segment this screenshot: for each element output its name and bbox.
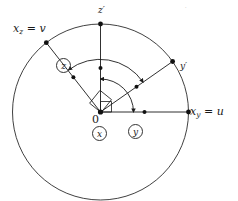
midpoint-dot-yprime [135, 85, 139, 89]
midpoint-dot-zprime [99, 66, 103, 70]
circled-label-y: y [128, 124, 143, 139]
midpoint-dot-xy [143, 110, 147, 114]
label-axis-xz: xz = v [13, 23, 46, 35]
endpoint-dot-zprime [98, 22, 103, 27]
label-axis-yprime: y′ [180, 62, 187, 71]
endpoint-dot-xz [44, 40, 49, 45]
label-axis-zprime: z′ [98, 6, 105, 15]
label-origin: 0 [92, 114, 99, 125]
label-axis-xy-value: u [217, 105, 224, 118]
circled-label-x: x [92, 126, 107, 141]
circled-label-z: z [56, 58, 71, 73]
stray-speck-mark: · [185, 5, 187, 10]
arc-outer [69, 59, 144, 82]
label-axis-xy: xy = u [190, 106, 224, 118]
endpoint-dot-yprime [170, 59, 175, 64]
label-axis-xz-eq: = [23, 22, 39, 35]
midpoint-dot-xz [71, 75, 75, 79]
label-axis-xy-eq: = [200, 105, 216, 118]
label-axis-xz-value: v [39, 22, 45, 35]
